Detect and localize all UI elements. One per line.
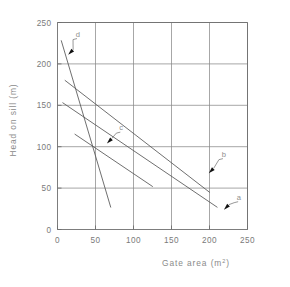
grid-lines [58,23,248,230]
data-line-a [65,80,209,192]
data-line-d [61,41,110,207]
y-tick-label: 50 [42,184,52,193]
annotation-leader-c [112,132,120,138]
chart-container: dcba 050100150200250 050100150200250 Gat… [0,0,290,287]
x-axis-tick-labels: 050100150200250 [55,236,255,245]
axis-frame [58,23,248,230]
annotation-leader-d [73,39,77,50]
y-tick-label: 250 [37,19,52,28]
curve-label-c: c [119,123,123,132]
tick-marks [58,23,248,230]
line-chart: dcba 050100150200250 050100150200250 Gat… [0,0,290,287]
y-axis-title: Head on sill (m) [8,83,18,156]
data-line-b [63,103,217,207]
curve-label-a: a [237,193,242,202]
x-axis-title: Gate area (m2) [162,258,230,268]
y-axis-tick-labels: 050100150200250 [37,19,52,235]
y-tick-label: 100 [37,143,52,152]
x-tick-label: 200 [202,236,217,245]
annotation-leader-a [229,202,238,205]
curve-annotations: dcba [68,30,242,210]
curve-label-b: b [222,150,227,159]
x-tick-label: 0 [55,236,60,245]
y-tick-label: 0 [47,226,52,235]
x-axis-title-tail: ) [226,258,230,268]
x-axis-title-base: Gate area (m [162,258,222,268]
x-tick-label: 100 [126,236,141,245]
y-tick-label: 200 [37,60,52,69]
data-series-lines [61,41,217,207]
x-tick-label: 150 [164,236,179,245]
y-tick-label: 150 [37,101,52,110]
x-tick-label: 250 [240,236,255,245]
curve-label-d: d [76,30,81,39]
data-line-c [75,134,153,186]
x-tick-label: 50 [91,236,101,245]
annotation-leader-b [214,159,223,169]
